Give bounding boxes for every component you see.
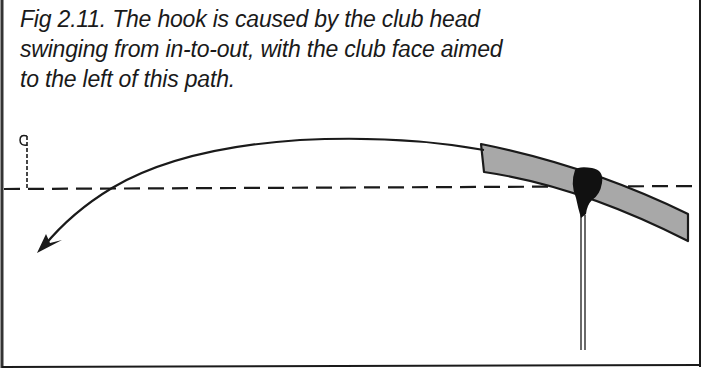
ball-flight-path <box>44 139 484 246</box>
arrowhead-icon <box>37 234 62 253</box>
club-shaft <box>581 215 585 350</box>
caption-line-3: to the left of this path. <box>20 64 680 94</box>
caption-line-2: swinging from in-to-out, with the club f… <box>20 34 680 64</box>
flag-icon <box>20 136 27 190</box>
frame-bottom-border <box>2 365 700 367</box>
figure-caption: Fig 2.11. The hook is caused by the club… <box>20 4 680 94</box>
caption-line-1: Fig 2.11. The hook is caused by the club… <box>20 4 680 34</box>
figure-frame: Fig 2.11. The hook is caused by the club… <box>0 0 720 386</box>
club-head-icon <box>573 167 603 218</box>
